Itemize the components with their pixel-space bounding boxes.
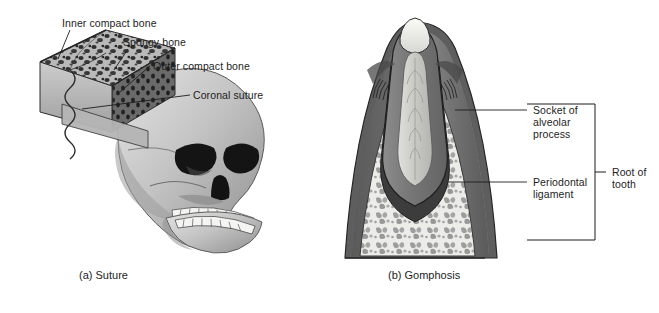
- label-socket-of-alveolar-process: Socket of alveolar process: [533, 104, 578, 140]
- label-root-of-tooth: Root of tooth: [612, 166, 647, 190]
- caption-panel-b: (b) Gomphosis: [388, 269, 460, 282]
- caption-panel-a: (a) Suture: [79, 269, 128, 282]
- label-spongy-bone: Spongy bone: [123, 36, 186, 48]
- anatomy-figure: Inner compact bone Spongy bone Outer com…: [0, 0, 659, 313]
- figure-artwork: [0, 0, 659, 313]
- label-periodontal-ligament: Periodontal ligament: [533, 176, 587, 200]
- label-outer-compact-bone: Outer compact bone: [153, 60, 250, 72]
- label-coronal-suture: Coronal suture: [193, 89, 263, 101]
- label-inner-compact-bone: Inner compact bone: [62, 17, 157, 29]
